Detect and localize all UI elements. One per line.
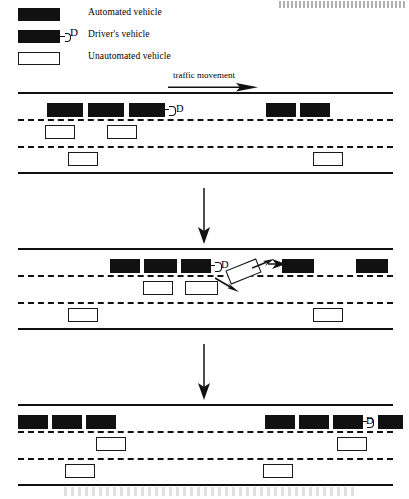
unautomated-vehicle: [313, 152, 343, 166]
road-edge-top: [18, 404, 393, 406]
unautomated-vehicle: [143, 281, 173, 295]
automated-vehicle: [110, 259, 140, 273]
lane-divider-1: [18, 119, 393, 121]
traffic-direction-indicator: traffic movement: [168, 70, 288, 94]
automated-vehicle: [47, 103, 83, 117]
drivers-vehicle: [181, 259, 211, 273]
unautomated-vehicle: [65, 464, 95, 478]
page-header-artifact: [279, 1, 405, 8]
road-edge-top: [18, 248, 393, 250]
unautomated-vehicle: [96, 437, 126, 451]
panel-1-initial-state: D: [0, 92, 409, 174]
automated-vehicle: [265, 415, 295, 429]
panel-3-resulting-state: D: [0, 404, 409, 486]
figure-caption-artifact: [64, 487, 354, 496]
drivers-vehicle: [129, 103, 165, 117]
automated-vehicle-swatch: [18, 8, 60, 21]
lane-divider-2: [18, 146, 393, 148]
road-edge-bottom: [18, 484, 393, 486]
legend-driver-letter: D: [70, 27, 78, 38]
driver-letter: D: [176, 104, 184, 115]
driver-marker-icon: [60, 33, 69, 40]
automated-vehicle: [378, 415, 403, 429]
lane-divider-2: [18, 302, 393, 304]
unautomated-vehicle: [337, 437, 367, 451]
road-edge-bottom: [18, 172, 393, 174]
unautomated-vehicle: [45, 125, 75, 139]
unautomated-vehicle: [185, 281, 218, 295]
automated-vehicle: [356, 259, 388, 273]
down-arrow-icon-2: [193, 344, 215, 400]
unautomated-vehicle: [263, 464, 293, 478]
automated-vehicle: [86, 415, 116, 429]
lane-divider-1: [18, 431, 393, 433]
legend-label-automated: Automated vehicle: [88, 7, 162, 17]
merge-arrow-entry-icon: [215, 276, 239, 292]
right-arrow-icon: [168, 83, 258, 92]
panel-2-merging-state: D: [0, 248, 409, 330]
gap-arrow-icon: [268, 258, 286, 270]
lane-divider-2: [18, 458, 393, 460]
unautomated-vehicle: [313, 308, 343, 322]
driver-marker-icon: [164, 106, 175, 114]
automated-vehicle: [144, 259, 177, 273]
down-arrow-icon-1: [193, 188, 215, 244]
lane-divider-1: [18, 275, 393, 277]
automated-vehicle: [266, 103, 296, 117]
traffic-direction-label: traffic movement: [173, 70, 235, 80]
automated-vehicle: [300, 103, 330, 117]
drivers-vehicle-swatch: [18, 30, 60, 43]
automated-vehicle: [52, 415, 82, 429]
unautomated-vehicle-swatch: [18, 52, 60, 65]
legend-label-unautomated: Unautomated vehicle: [88, 51, 171, 61]
road-edge-top: [18, 92, 393, 94]
road-edge-bottom: [18, 328, 393, 330]
automated-vehicle: [18, 415, 48, 429]
unautomated-vehicle: [68, 308, 98, 322]
driver-letter: D: [366, 416, 374, 427]
drivers-vehicle: [333, 415, 363, 429]
unautomated-vehicle: [68, 152, 98, 166]
automated-vehicle: [88, 103, 124, 117]
driver-marker-icon: [210, 262, 221, 270]
automated-vehicle: [299, 415, 329, 429]
unautomated-vehicle: [107, 125, 137, 139]
automated-vehicle: [282, 259, 314, 273]
figure-canvas: Automated vehicle D Driver's vehicle Una…: [0, 0, 409, 499]
legend-label-drivers: Driver's vehicle: [88, 29, 150, 39]
